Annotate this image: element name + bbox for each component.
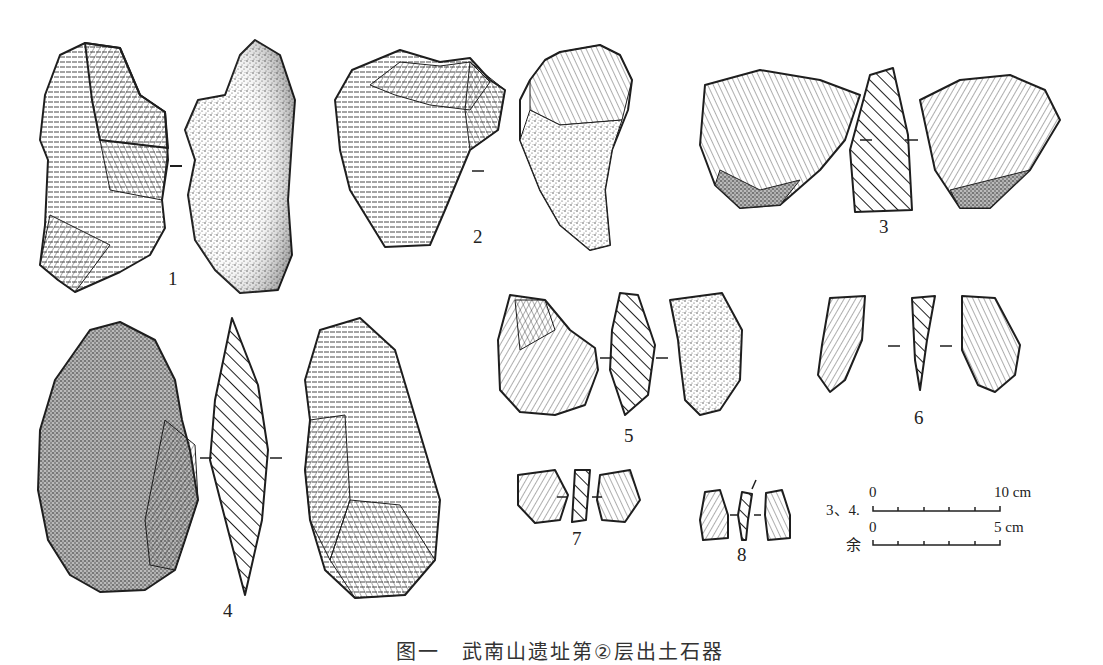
arrow-marker <box>752 480 756 489</box>
artifact-4 <box>38 318 440 598</box>
artifact-8 <box>700 480 790 540</box>
artifact-5 <box>498 293 742 415</box>
scale-end: 10 cm <box>994 484 1031 501</box>
scale-prefix: 3、4. <box>826 498 860 519</box>
artifact-2 <box>335 45 632 250</box>
scale-bar-10cm <box>873 506 1000 511</box>
artifact-label-8: 8 <box>737 544 747 566</box>
artifact-3 <box>700 68 1060 212</box>
artifact-7 <box>518 470 640 523</box>
artifact-label-6: 6 <box>914 407 924 429</box>
artifact-label-5: 5 <box>624 425 634 447</box>
scale-end: 5 cm <box>994 519 1024 536</box>
artifact-label-3: 3 <box>879 216 889 238</box>
artifact-1 <box>40 40 295 293</box>
scale-start: 0 <box>869 519 877 536</box>
artifact-6 <box>818 296 1020 392</box>
figure-caption: 图一 武南山遗址第②层出土石器 <box>396 636 724 665</box>
artifact-label-1: 1 <box>168 268 178 290</box>
artifact-label-7: 7 <box>572 528 582 550</box>
artifact-label-4: 4 <box>223 600 233 622</box>
scale-prefix: 余 <box>846 533 861 554</box>
scale-bar-5cm <box>873 540 1000 545</box>
artifact-label-2: 2 <box>473 226 483 248</box>
scale-start: 0 <box>869 484 877 501</box>
